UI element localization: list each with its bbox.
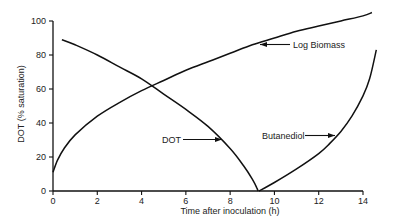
x-tick-label: 10 (269, 196, 279, 206)
y-tick-label: 100 (31, 16, 46, 26)
arrow-head (328, 133, 335, 138)
y-tick-label: 80 (36, 50, 46, 60)
x-tick-label: 14 (358, 196, 368, 206)
annotation-label-dot: DOT (162, 135, 182, 145)
y-tick-label: 20 (36, 152, 46, 162)
x-ticks: 02468101214 (50, 191, 368, 206)
x-axis-label: Time after inoculation (h) (180, 206, 279, 216)
x-tick-label: 4 (139, 196, 144, 206)
dot-biomass-butanediol-chart: 02468101214 020406080100 Time after inoc… (0, 0, 396, 222)
annotation-dot: DOT (162, 135, 222, 145)
x-tick-label: 8 (228, 196, 233, 206)
y-axis-label: DOT (% saturation) (16, 65, 26, 142)
annotations: Log Biomass DOT Butanediol (162, 40, 346, 145)
annotation-butanediol: Butanediol (262, 131, 335, 141)
x-tick-label: 12 (314, 196, 324, 206)
x-tick-label: 2 (95, 196, 100, 206)
x-tick-label: 6 (183, 196, 188, 206)
y-tick-label: 60 (36, 84, 46, 94)
y-tick-label: 40 (36, 118, 46, 128)
series-line-dot (62, 40, 258, 191)
series-line-butanediol (259, 50, 376, 191)
y-ticks: 020406080100 (31, 16, 53, 196)
annotation-log-biomass: Log Biomass (260, 40, 346, 50)
x-tick-label: 0 (50, 196, 55, 206)
annotation-label-log-biomass: Log Biomass (293, 40, 346, 50)
annotation-label-butanediol: Butanediol (262, 131, 305, 141)
y-tick-label: 0 (41, 186, 46, 196)
